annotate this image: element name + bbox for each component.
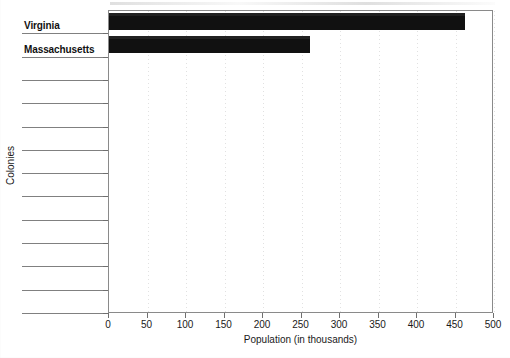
category-separator-line [22,290,108,291]
y-axis-tick [103,266,108,267]
category-separator-line [22,220,108,221]
category-separator-line [22,196,108,197]
y-axis-tick [103,290,108,291]
x-axis-tick-label: 450 [446,319,463,330]
category-separator-line [22,313,108,314]
x-axis-tick-label: 100 [177,319,194,330]
category-separator-line [22,173,108,174]
x-axis-tick [108,313,109,318]
x-axis-tick [224,313,225,318]
x-axis-tick [262,313,263,318]
x-axis-tick-label: 400 [408,319,425,330]
y-axis-tick [103,220,108,221]
plot-area [108,10,493,313]
gridline [417,11,418,312]
y-axis-tick [103,57,108,58]
gridline [302,11,303,312]
scan-smudge [110,2,495,5]
x-axis-tick-label: 0 [105,319,111,330]
category-separator-line [22,150,108,151]
x-axis-tick-label: 200 [254,319,271,330]
gridline [494,11,495,312]
x-axis-tick [416,313,417,318]
x-axis-title: Population (in thousands) [108,334,493,345]
gridline [340,11,341,312]
y-axis-tick [103,243,108,244]
gridline [148,11,149,312]
x-axis-tick [378,313,379,318]
category-separator-line [22,80,108,81]
category-separator-line [22,57,108,58]
category-separator-line [22,33,108,34]
y-axis-tick [103,127,108,128]
category-label: Virginia [24,20,60,31]
x-axis-tick [185,313,186,318]
x-axis-tick-label: 250 [292,319,309,330]
x-axis-tick [455,313,456,318]
gridline [379,11,380,312]
y-axis-title: Colonies [5,134,16,198]
x-axis-tick-label: 350 [369,319,386,330]
category-separator-line [22,127,108,128]
category-separator-line [22,266,108,267]
gridline [263,11,264,312]
x-axis-tick-label: 300 [331,319,348,330]
x-axis-tick [339,313,340,318]
x-axis-tick [301,313,302,318]
bar [109,13,465,30]
category-label: Massachusetts [24,44,94,55]
y-axis-tick [103,80,108,81]
bar [109,36,310,53]
gridline [456,11,457,312]
category-separator-line [22,103,108,104]
x-axis-tick [147,313,148,318]
gridline [186,11,187,312]
y-axis-tick [103,103,108,104]
x-axis-tick [493,313,494,318]
y-axis-tick [103,150,108,151]
y-axis-tick [103,173,108,174]
y-axis-tick [103,33,108,34]
x-axis-tick-label: 500 [485,319,502,330]
x-axis-tick-label: 50 [141,319,152,330]
bar-chart: Colonies VirginiaMassachusetts 050100150… [0,0,510,358]
y-axis-tick [103,196,108,197]
gridline [225,11,226,312]
x-axis-tick-label: 150 [215,319,232,330]
category-separator-line [22,243,108,244]
